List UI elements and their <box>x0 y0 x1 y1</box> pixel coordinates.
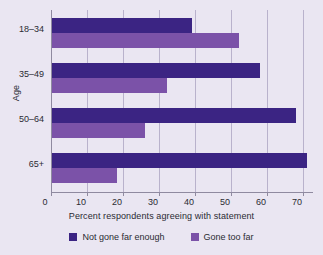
bar-gone-too-far <box>52 123 145 138</box>
legend-label: Gone too far <box>204 232 254 242</box>
x-axis-title: Percent respondents agreeing with statem… <box>0 211 323 221</box>
y-axis-tick-label: 65+ <box>29 159 44 169</box>
bar-group <box>52 108 313 138</box>
x-axis-tick-label: 50 <box>215 197 235 208</box>
legend-swatch-icon <box>69 233 77 241</box>
x-axis-line <box>51 192 313 193</box>
bar-gone-too-far <box>52 33 239 48</box>
x-axis-tick-label: 70 <box>287 197 307 208</box>
bar-chart: Age 18–34 35–49 50–64 65+ <box>0 0 323 255</box>
y-axis-tick-label: 18–34 <box>19 24 44 34</box>
y-axis-tick-label: 35–49 <box>19 69 44 79</box>
bar-not-gone-far-enough <box>52 18 192 33</box>
x-axis-tick <box>195 192 196 196</box>
y-axis-tick-label: 50–64 <box>19 114 44 124</box>
x-axis-tick <box>303 192 304 196</box>
bar-not-gone-far-enough <box>52 108 296 123</box>
x-axis-tick-label: 20 <box>107 197 127 208</box>
bar-group <box>52 63 313 93</box>
legend: Not gone far enough Gone too far <box>0 232 323 242</box>
bar-not-gone-far-enough <box>52 63 260 78</box>
bar-not-gone-far-enough <box>52 153 307 168</box>
x-axis-tick <box>267 192 268 196</box>
x-axis-tick <box>231 192 232 196</box>
x-axis-tick-label: 0 <box>35 197 55 208</box>
x-axis-tick <box>159 192 160 196</box>
bar-gone-too-far <box>52 168 117 183</box>
bar-group <box>52 153 313 183</box>
x-axis-tick-label: 10 <box>71 197 91 208</box>
x-axis-tick-label: 30 <box>143 197 163 208</box>
legend-swatch-icon <box>191 233 199 241</box>
plot-area <box>51 10 313 192</box>
bar-group <box>52 18 313 48</box>
x-axis-tick <box>123 192 124 196</box>
legend-item: Not gone far enough <box>69 232 164 242</box>
bar-gone-too-far <box>52 78 167 93</box>
legend-label: Not gone far enough <box>82 232 164 242</box>
x-axis-tick-label: 40 <box>179 197 199 208</box>
x-axis-tick-label: 60 <box>251 197 271 208</box>
x-axis-tick <box>87 192 88 196</box>
y-axis-line <box>51 10 52 192</box>
y-axis-tick-labels: 18–34 35–49 50–64 65+ <box>0 10 47 192</box>
x-axis-tick <box>51 192 52 196</box>
legend-item: Gone too far <box>191 232 254 242</box>
